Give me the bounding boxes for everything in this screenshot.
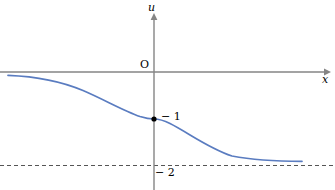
y-intercept-point bbox=[151, 116, 156, 121]
plot-canvas bbox=[0, 0, 335, 190]
graph-figure: u x O − 1 − 2 bbox=[0, 0, 335, 190]
intercept-value-label: − 1 bbox=[161, 111, 181, 122]
asymptote-value-label: − 2 bbox=[155, 167, 175, 178]
y-axis-arrowhead bbox=[151, 13, 158, 20]
y-axis-label: u bbox=[148, 2, 155, 13]
x-axis-label: x bbox=[322, 74, 328, 85]
origin-label: O bbox=[140, 59, 149, 70]
